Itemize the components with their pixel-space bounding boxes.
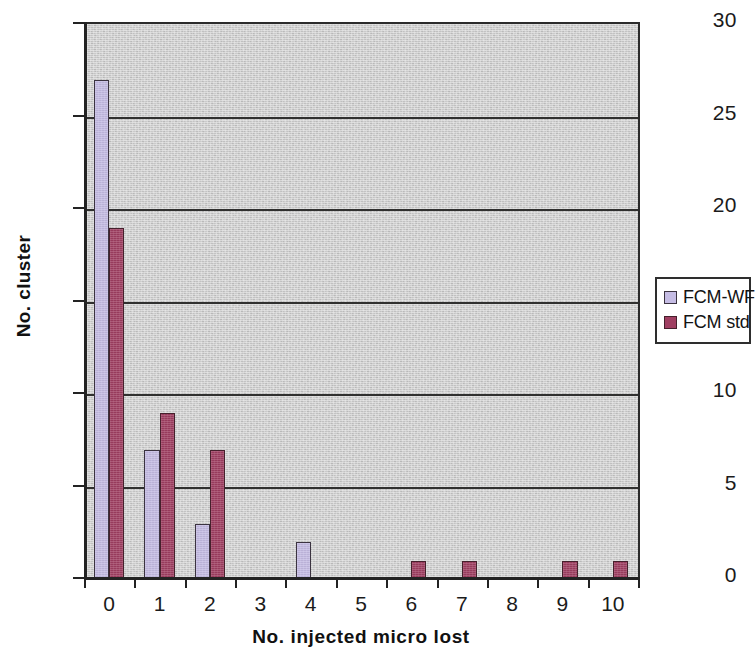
bar [195, 524, 210, 580]
gridline [84, 209, 638, 211]
x-axis-tick [235, 577, 237, 588]
bar-texture [196, 525, 209, 579]
plot-area [84, 22, 640, 579]
x-axis-tick [285, 577, 287, 588]
bar-texture [614, 562, 627, 579]
legend-swatch-icon [664, 316, 677, 329]
y-axis-tick [73, 300, 84, 302]
x-axis-tick [638, 577, 640, 588]
y-axis-tick-label: 20 [675, 193, 737, 217]
bar-texture [110, 229, 123, 579]
bar-texture [463, 562, 476, 579]
gridline [84, 117, 638, 119]
legend-item-0[interactable]: FCM-WF [664, 285, 745, 310]
y-axis-tick-label: 10 [675, 378, 737, 402]
legend: FCM-WF FCM std [655, 277, 751, 344]
x-axis-tick [84, 577, 86, 588]
bar [144, 450, 159, 580]
bar-texture [211, 451, 224, 579]
legend-item-1[interactable]: FCM std [664, 310, 745, 335]
legend-swatch-icon [664, 291, 677, 304]
y-axis-tick-label: 5 [675, 471, 737, 495]
y-axis-tick [73, 485, 84, 487]
bar-texture [297, 543, 310, 578]
x-axis-tick [487, 577, 489, 588]
x-axis-tick [588, 577, 590, 588]
y-axis-tick-label: 30 [675, 8, 737, 32]
y-axis-tick [73, 115, 84, 117]
y-axis-tick-label: 0 [675, 563, 737, 587]
bar-texture [95, 81, 108, 579]
bar [296, 542, 311, 579]
bar [210, 450, 225, 580]
y-axis-tick [73, 577, 84, 579]
y-axis-title: No. cluster [13, 216, 35, 356]
x-axis-tick [134, 577, 136, 588]
bar [109, 228, 124, 580]
bar [160, 413, 175, 580]
gridline [84, 302, 638, 304]
x-axis-tick-label: 10 [583, 592, 643, 616]
x-axis-tick [185, 577, 187, 588]
y-axis-tick [73, 392, 84, 394]
x-axis-tick [386, 577, 388, 588]
y-axis-line [84, 22, 87, 579]
x-axis-line [84, 577, 640, 580]
y-axis-tick [73, 22, 84, 24]
bar-texture [145, 451, 158, 579]
bar [94, 80, 109, 580]
legend-item-label: FCM-WF [683, 287, 755, 308]
x-axis-tick [336, 577, 338, 588]
gridline [84, 394, 638, 396]
x-axis-title: No. injected micro lost [84, 626, 638, 648]
x-axis-tick [537, 577, 539, 588]
bar-texture [161, 414, 174, 579]
legend-item-label: FCM std [683, 312, 750, 333]
y-axis-tick-label: 25 [675, 101, 737, 125]
y-axis-tick [73, 207, 84, 209]
bar-texture [412, 562, 425, 579]
bar-texture [563, 562, 576, 579]
x-axis-tick [437, 577, 439, 588]
